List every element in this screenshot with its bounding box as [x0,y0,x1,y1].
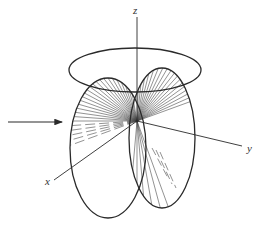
horizontal-pattern-ellipse [69,48,201,92]
right-lobe-rays [123,0,258,228]
radiation-pattern-diagram: z y x [0,0,258,228]
x-axis-label: x [44,175,50,187]
origin-point [135,119,138,122]
y-axis-label: y [246,142,252,154]
left-lobe-rays [0,0,137,176]
z-axis-label: z [132,4,138,16]
y-axis [137,121,242,146]
